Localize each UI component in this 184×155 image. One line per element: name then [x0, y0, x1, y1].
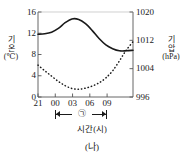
left-tick-12: 12: [20, 29, 36, 38]
axis-frame: [38, 12, 133, 97]
right-tick-996: 996: [136, 93, 150, 102]
bracket-arrow-left: [56, 111, 60, 117]
right-axis-ticks: [130, 12, 134, 97]
series-temperature-line: [38, 19, 133, 51]
left-axis-unit: (℃): [2, 53, 20, 62]
right-tick-1020: 1020: [136, 8, 154, 17]
figure-caption: (나): [0, 140, 184, 153]
right-axis-unit: (hPa): [158, 53, 184, 62]
left-tick-16: 16: [20, 8, 36, 17]
left-axis-ticks: [38, 12, 42, 97]
left-tick-8: 8: [20, 50, 36, 59]
left-tick-4: 4: [20, 71, 36, 80]
x-axis-ticks: [38, 94, 107, 98]
right-axis-title: 기 압 (hPa): [158, 36, 184, 62]
x-axis-title: 시간(시): [0, 122, 184, 134]
span-bracket-annotation: ㉠: [55, 108, 107, 120]
bracket-arrow-right: [102, 111, 106, 117]
series-pressure-line: [38, 42, 133, 89]
figure-container: 16 12 8 4 0 1020 1012 1004 996 21 00 03 …: [0, 0, 184, 155]
bracket-marker-label: ㉠: [72, 108, 92, 120]
right-tick-1012: 1012: [136, 36, 154, 45]
left-axis-title: 기 온 (℃): [2, 36, 20, 62]
right-tick-1004: 1004: [136, 64, 154, 73]
bracket-cap-right: [106, 110, 107, 119]
x-tick-09: 09: [97, 99, 117, 108]
